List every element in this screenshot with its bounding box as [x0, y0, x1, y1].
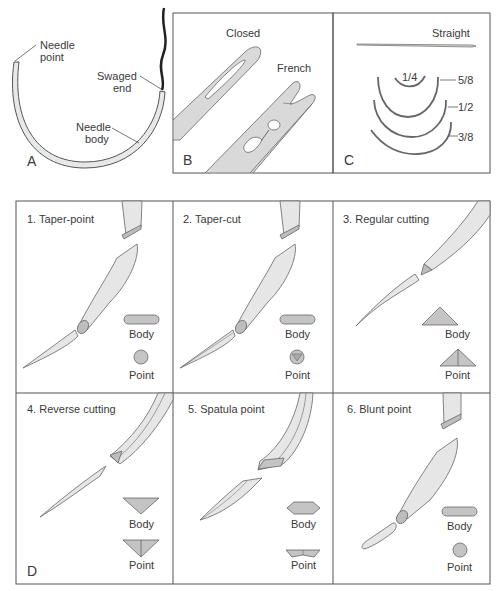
panel-letter-c: C	[344, 152, 354, 168]
panel-c: Straight 1/4 5/8 1/2 3/8 C	[333, 13, 490, 173]
body-cross-section-icon	[124, 315, 159, 324]
straight-needle	[357, 44, 476, 47]
closed-eye-needle	[173, 47, 261, 140]
label-swaged-2: end	[113, 82, 131, 94]
panel-letter-b: B	[183, 152, 192, 168]
five-eighths-curve-needle	[378, 77, 438, 117]
body-label: Body	[129, 518, 155, 530]
panel-letter-a: A	[27, 153, 37, 169]
label-body-2: body	[85, 133, 109, 145]
point-label: Point	[129, 369, 154, 381]
cell-title: 4. Reverse cutting	[27, 403, 116, 415]
cell-title: 5. Spatula point	[188, 403, 264, 415]
body-label: Body	[445, 328, 471, 340]
label-needle-point-1: Needle	[40, 39, 75, 51]
point-label: Point	[291, 559, 316, 571]
cell-regular-cutting: 3. Regular cutting Body Point	[343, 201, 490, 381]
body-label: Body	[285, 328, 311, 340]
point-label: Point	[447, 561, 472, 573]
body-label: Body	[129, 328, 155, 340]
label-curve-1-4: 1/4	[402, 71, 417, 83]
cell-spatula-point: 5. Spatula point Body Point	[188, 393, 320, 571]
cell-blunt-point: 6. Blunt point Body Point	[347, 393, 477, 573]
label-curve-5-8: 5/8	[458, 74, 473, 86]
panel-a: Needle point Swaged end Needle body A	[12, 8, 165, 169]
label-straight: Straight	[432, 27, 470, 39]
label-curve-3-8: 3/8	[458, 131, 473, 143]
point-cross-section-icon	[134, 350, 148, 364]
cell-title: 1. Taper-point	[27, 213, 94, 225]
body-label: Body	[291, 518, 317, 530]
panel-b: Closed French B	[173, 13, 333, 173]
point-label: Point	[129, 559, 154, 571]
cell-reverse-cutting: 4. Reverse cutting Body Point D	[27, 393, 173, 579]
label-french: French	[277, 62, 311, 74]
panel-letter-d: D	[27, 563, 37, 579]
cell-taper-point: 1. Taper-point Body Point	[23, 201, 159, 381]
cell-taper-cut: 2. Taper-cut Body Point	[180, 201, 315, 381]
label-swaged-1: Swaged	[97, 70, 137, 82]
label-curve-1-2: 1/2	[458, 101, 473, 113]
label-body-1: Needle	[76, 121, 111, 133]
three-eighths-curve-needle	[371, 122, 451, 154]
body-label: Body	[447, 520, 473, 532]
cell-title: 3. Regular cutting	[343, 213, 429, 225]
point-label: Point	[285, 369, 310, 381]
panel-d: 1. Taper-point Body Point 2. Taper-cut B…	[16, 201, 490, 584]
cell-title: 2. Taper-cut	[183, 213, 241, 225]
cell-title: 6. Blunt point	[347, 403, 411, 415]
label-needle-point-2: point	[40, 51, 64, 63]
suture-thread	[161, 8, 166, 90]
half-curve-needle	[374, 100, 446, 137]
label-closed: Closed	[226, 27, 260, 39]
point-label: Point	[445, 369, 470, 381]
needle-diagram: Needle point Swaged end Needle body A Cl…	[0, 0, 504, 591]
